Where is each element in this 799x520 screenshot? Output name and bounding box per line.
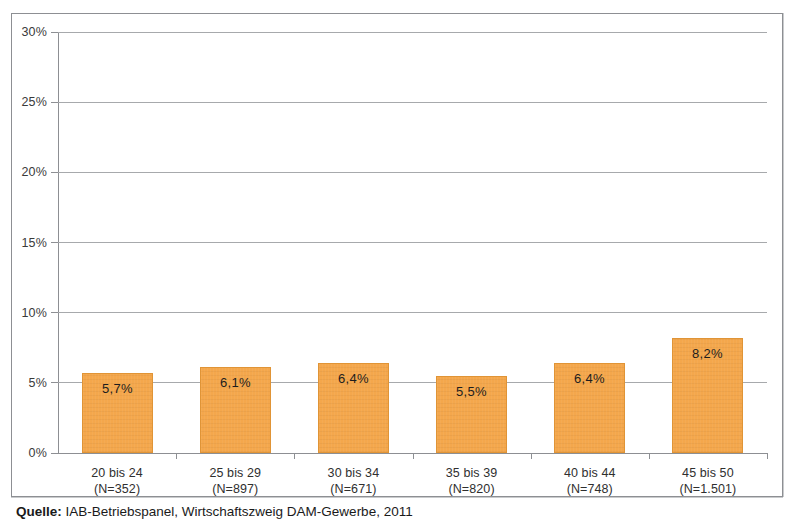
category-name: 30 bis 34	[294, 465, 412, 481]
y-axis-tick	[51, 102, 58, 103]
category-sample-size: (N=748)	[531, 481, 649, 497]
gridline-25	[58, 102, 767, 103]
bar-value-label: 6,4%	[555, 371, 624, 386]
gridline-10	[58, 312, 767, 313]
bar: 8,2%	[672, 338, 743, 453]
y-axis-tick	[51, 312, 58, 313]
bar-value-label: 6,4%	[319, 371, 388, 386]
category-sample-size: (N=897)	[176, 481, 294, 497]
y-axis-tick	[51, 453, 58, 454]
x-axis-tick	[176, 453, 177, 459]
x-axis-tick	[294, 453, 295, 459]
y-axis-label: 10%	[21, 306, 47, 320]
x-axis-tick	[531, 453, 532, 459]
category-sample-size: (N=1.501)	[649, 481, 767, 497]
category-name: 45 bis 50	[649, 465, 767, 481]
bar-value-label: 8,2%	[673, 346, 742, 361]
bar: 5,7%	[82, 373, 153, 453]
x-axis-tick	[767, 453, 768, 459]
y-axis-label: 15%	[21, 236, 47, 250]
bar: 6,4%	[554, 363, 625, 453]
y-axis-tick	[51, 32, 58, 33]
y-axis-label: 20%	[21, 165, 47, 179]
y-axis-label: 30%	[21, 25, 47, 39]
category-name: 20 bis 24	[58, 465, 176, 481]
x-axis-category-label: 45 bis 50(N=1.501)	[649, 465, 767, 497]
y-axis-label: 0%	[29, 446, 47, 460]
y-axis-tick	[51, 382, 58, 383]
chart-frame: 0%5%10%15%20%25%30% 5,7%6,1%6,4%5,5%6,4%…	[11, 13, 783, 497]
bar: 6,4%	[318, 363, 389, 453]
gridline-20	[58, 172, 767, 173]
plot-area: 0%5%10%15%20%25%30% 5,7%6,1%6,4%5,5%6,4%…	[58, 32, 767, 453]
gridline-5	[58, 382, 767, 383]
x-axis-tick	[649, 453, 650, 459]
caption-prefix: Quelle:	[16, 504, 62, 519]
x-axis-category-label: 35 bis 39(N=820)	[413, 465, 531, 497]
x-axis-category-label: 20 bis 24(N=352)	[58, 465, 176, 497]
bar: 5,5%	[436, 376, 507, 453]
x-axis-tick	[413, 453, 414, 459]
bar: 6,1%	[200, 367, 271, 453]
category-sample-size: (N=352)	[58, 481, 176, 497]
y-axis-label: 25%	[21, 95, 47, 109]
y-axis-tick	[51, 172, 58, 173]
source-caption: Quelle: IAB-Betriebspanel, Wirtschaftszw…	[16, 503, 786, 520]
bar-value-label: 5,5%	[437, 384, 506, 399]
y-axis-tick	[51, 242, 58, 243]
bar-value-label: 5,7%	[83, 381, 152, 396]
category-name: 35 bis 39	[413, 465, 531, 481]
gridline-15	[58, 242, 767, 243]
x-axis-category-label: 30 bis 34(N=671)	[294, 465, 412, 497]
gridline-30	[58, 32, 767, 33]
category-name: 25 bis 29	[176, 465, 294, 481]
y-axis-label: 5%	[29, 376, 47, 390]
caption-text: IAB-Betriebspanel, Wirtschaftszweig DAM-…	[66, 504, 413, 519]
x-axis-category-label: 40 bis 44(N=748)	[531, 465, 649, 497]
category-name: 40 bis 44	[531, 465, 649, 481]
x-axis-category-label: 25 bis 29(N=897)	[176, 465, 294, 497]
category-sample-size: (N=671)	[294, 481, 412, 497]
bar-value-label: 6,1%	[201, 375, 270, 390]
category-sample-size: (N=820)	[413, 481, 531, 497]
